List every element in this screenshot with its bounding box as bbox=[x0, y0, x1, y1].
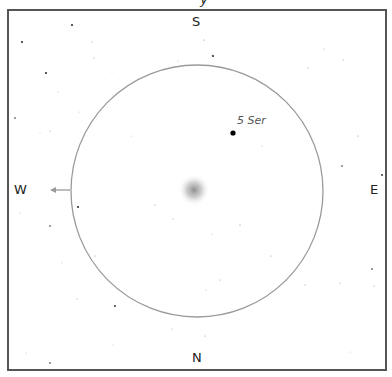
star bbox=[114, 305, 116, 307]
star bbox=[343, 60, 344, 61]
chart-title-fragment: y bbox=[200, 0, 208, 7]
star bbox=[381, 174, 383, 176]
star bbox=[71, 24, 73, 26]
star bbox=[112, 72, 113, 73]
star bbox=[20, 213, 21, 214]
star bbox=[77, 299, 78, 300]
star bbox=[113, 345, 114, 346]
star bbox=[271, 256, 272, 257]
star bbox=[45, 72, 47, 74]
star-label-5-ser: 5 Ser bbox=[237, 114, 266, 127]
star bbox=[212, 55, 213, 56]
star bbox=[49, 362, 51, 364]
star bbox=[308, 68, 309, 69]
finder-chart bbox=[0, 0, 392, 377]
star bbox=[340, 283, 341, 284]
star bbox=[77, 206, 79, 208]
compass-label-south: S bbox=[192, 14, 200, 29]
star bbox=[341, 165, 343, 167]
star bbox=[374, 286, 375, 287]
star bbox=[172, 329, 173, 330]
star bbox=[79, 112, 80, 113]
star bbox=[155, 205, 156, 206]
star bbox=[62, 263, 63, 264]
star bbox=[212, 234, 213, 235]
star bbox=[95, 256, 96, 257]
star bbox=[324, 49, 325, 50]
star bbox=[50, 131, 51, 132]
star bbox=[92, 42, 93, 43]
star bbox=[220, 280, 221, 281]
star bbox=[206, 290, 207, 291]
star bbox=[205, 336, 206, 337]
star bbox=[371, 268, 373, 270]
star bbox=[178, 61, 179, 62]
compass-label-north: N bbox=[192, 350, 202, 365]
star bbox=[239, 224, 240, 225]
star bbox=[350, 352, 351, 353]
star bbox=[21, 41, 23, 43]
star bbox=[26, 353, 27, 354]
target-object-glow bbox=[178, 174, 210, 206]
star bbox=[131, 136, 132, 137]
star bbox=[357, 135, 358, 136]
compass-label-west: W bbox=[14, 182, 27, 197]
star bbox=[14, 117, 16, 119]
star bbox=[94, 58, 95, 59]
star bbox=[173, 219, 174, 220]
star bbox=[49, 225, 51, 227]
compass-label-east: E bbox=[370, 182, 378, 197]
labeled-star-marker bbox=[230, 130, 235, 135]
star bbox=[40, 133, 41, 134]
star bbox=[262, 146, 263, 147]
star bbox=[203, 39, 204, 40]
star bbox=[58, 92, 59, 93]
star bbox=[305, 285, 306, 286]
